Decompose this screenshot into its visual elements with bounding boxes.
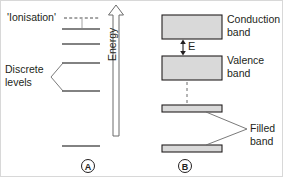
energy-axis-label: Energy (106, 28, 118, 61)
band-gap-arrow (180, 40, 186, 56)
ionisation-label: 'Ionisation' (7, 11, 56, 24)
valence-band-box (162, 56, 222, 80)
discrete-levels-leader (51, 63, 63, 91)
conduction-band-box (162, 15, 222, 39)
energy-axis-arrow (109, 5, 124, 136)
filled-band-lower-bar (162, 145, 222, 152)
panel-a-levels (62, 18, 100, 146)
panel-a-marker: A (81, 159, 95, 173)
filled-band-leader (206, 112, 247, 145)
conduction-band-label: Conduction band (227, 13, 280, 38)
discrete-levels-label: Discrete levels (5, 63, 44, 88)
valence-band-label: Valence band (227, 54, 264, 79)
filled-band-label: Filled band (250, 122, 275, 147)
band-structure-figure: 'Ionisation' Discrete levels Energy Cond… (0, 0, 283, 177)
band-gap-energy-label: E (188, 40, 195, 53)
filled-band-upper-bar (162, 105, 222, 112)
panel-b-marker: B (178, 159, 192, 173)
panel-b-bands (162, 15, 222, 152)
